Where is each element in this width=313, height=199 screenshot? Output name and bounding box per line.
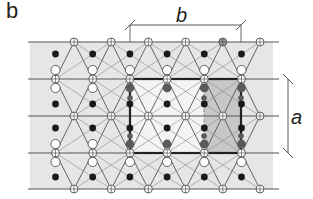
lattice-diagram — [0, 0, 313, 199]
